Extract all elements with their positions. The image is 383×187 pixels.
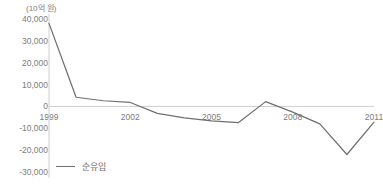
chart-legend: 순유입 (56, 160, 106, 173)
line-series-net-inflow (49, 23, 374, 154)
legend-label-net-inflow: 순유입 (82, 160, 106, 173)
series-group (49, 23, 374, 154)
legend-line-swatch (56, 166, 75, 167)
